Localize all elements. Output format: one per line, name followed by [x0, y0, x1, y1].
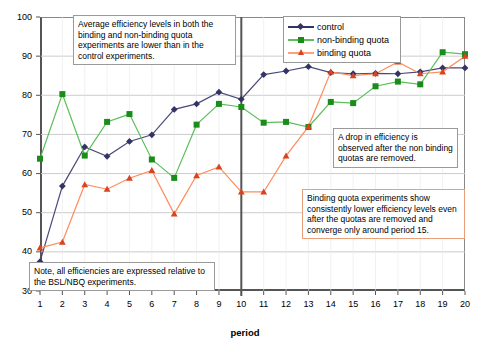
x-axis-tick: 1	[30, 300, 50, 309]
legend-key-non-binding-quota	[288, 34, 314, 45]
data-point-non-binding-quota-p12	[283, 119, 289, 125]
x-axis-tick: 2	[52, 300, 72, 309]
x-axis-tick: 14	[321, 300, 341, 309]
data-point-control-p12	[283, 68, 290, 75]
y-axis-tick: 100	[6, 13, 32, 22]
x-axis-tick: 19	[433, 300, 453, 309]
data-point-non-binding-quota-p14	[328, 99, 334, 105]
square-marker-icon	[298, 37, 304, 43]
annotation-efficiency-note: Note, all efficiencies are expressed rel…	[29, 262, 215, 291]
x-axis-tick: 3	[75, 300, 95, 309]
data-point-non-binding-quota-p8	[194, 122, 200, 128]
data-point-control-p2	[59, 183, 66, 190]
data-point-non-binding-quota-p6	[149, 156, 155, 162]
data-point-binding-quota-p2	[59, 239, 66, 245]
data-point-non-binding-quota-p15	[350, 100, 356, 106]
y-axis-tick: 70	[6, 130, 32, 139]
y-axis-tick: 50	[6, 208, 32, 217]
data-point-non-binding-quota-p16	[373, 83, 379, 89]
x-axis-tick: 12	[276, 300, 296, 309]
y-axis-tick: 60	[6, 169, 32, 178]
data-point-control-p20	[462, 64, 469, 71]
annotation-average-efficiency: Average efficiency levels in both the bi…	[73, 15, 236, 65]
legend-label-non-binding-quota: non-binding quota	[317, 35, 389, 45]
data-point-binding-quota-p6	[148, 167, 155, 173]
data-point-control-p5	[126, 138, 133, 145]
data-point-non-binding-quota-p3	[82, 153, 88, 159]
x-axis-tick: 16	[366, 300, 386, 309]
data-point-control-p17	[394, 70, 401, 77]
data-point-control-p8	[193, 100, 200, 107]
legend-key-control	[288, 21, 314, 32]
annotation-binding-quota: Binding quota experiments show consisten…	[302, 189, 465, 239]
y-axis-tick: 40	[6, 247, 32, 256]
legend-key-binding-quota	[288, 47, 314, 58]
data-point-non-binding-quota-p4	[104, 119, 110, 125]
x-axis-tick: 13	[298, 300, 318, 309]
x-axis-tick: 15	[343, 300, 363, 309]
x-axis-tick: 9	[209, 300, 229, 309]
efficiency-line-chart: 30405060708090100 1234567891011121314151…	[0, 0, 485, 343]
data-point-control-p13	[305, 63, 312, 70]
data-point-control-p4	[104, 153, 111, 160]
data-point-non-binding-quota-p19	[440, 49, 446, 55]
data-point-non-binding-quota-p17	[395, 79, 401, 85]
data-point-non-binding-quota-p7	[171, 175, 177, 181]
chart-legend: control non-binding quota binding quota	[283, 16, 401, 63]
x-axis-tick: 7	[164, 300, 184, 309]
data-point-non-binding-quota-p2	[59, 91, 65, 97]
data-point-non-binding-quota-p11	[261, 120, 267, 126]
data-point-non-binding-quota-p10	[238, 104, 244, 110]
data-point-binding-quota-p7	[171, 210, 178, 216]
legend-item-control: control	[288, 20, 396, 33]
x-axis-tick: 10	[231, 300, 251, 309]
legend-label-control: control	[317, 22, 344, 32]
data-point-binding-quota-p19	[439, 68, 446, 74]
x-axis-title: period	[205, 327, 285, 338]
x-axis-tick: 5	[119, 300, 139, 309]
data-point-non-binding-quota-p18	[417, 81, 423, 87]
x-axis-tick: 17	[388, 300, 408, 309]
triangle-marker-icon	[298, 49, 304, 55]
data-point-binding-quota-p3	[81, 181, 88, 187]
annotation-efficiency-drop: A drop in efficiency is observed after t…	[333, 128, 458, 168]
legend-item-binding-quota: binding quota	[288, 46, 396, 59]
x-axis-tick: 20	[455, 300, 475, 309]
data-point-non-binding-quota-p9	[216, 101, 222, 107]
diamond-marker-icon	[297, 23, 304, 30]
y-axis-tick: 90	[6, 52, 32, 61]
x-axis-tick: 11	[254, 300, 274, 309]
x-axis-tick: 6	[142, 300, 162, 309]
data-point-binding-quota-p9	[216, 164, 223, 170]
y-axis-tick: 80	[6, 91, 32, 100]
data-point-control-p9	[216, 89, 223, 96]
legend-item-non-binding-quota: non-binding quota	[288, 33, 396, 46]
legend-label-binding-quota: binding quota	[317, 48, 371, 58]
x-axis-tick: 18	[410, 300, 430, 309]
data-point-non-binding-quota-p5	[126, 111, 132, 117]
x-axis-tick: 8	[187, 300, 207, 309]
x-axis-tick: 4	[97, 300, 117, 309]
data-point-non-binding-quota-p1	[37, 156, 43, 162]
